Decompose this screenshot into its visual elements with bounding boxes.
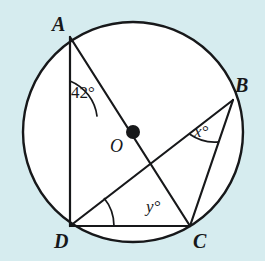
center-label-o: O	[110, 137, 123, 155]
angle-label-x-degrees: x°	[194, 123, 208, 140]
vertex-label-a: A	[52, 14, 65, 34]
angle-label-y-degrees: y°	[146, 198, 160, 215]
circle-geometry-figure: A B C D O 42° x° y°	[0, 0, 265, 261]
vertex-label-c: C	[193, 231, 206, 251]
angle-label-42-degrees: 42°	[71, 84, 95, 101]
center-point-dot	[126, 125, 140, 139]
vertex-label-d: D	[54, 231, 68, 251]
vertex-label-b: B	[235, 75, 248, 95]
geometry-canvas	[0, 0, 265, 261]
